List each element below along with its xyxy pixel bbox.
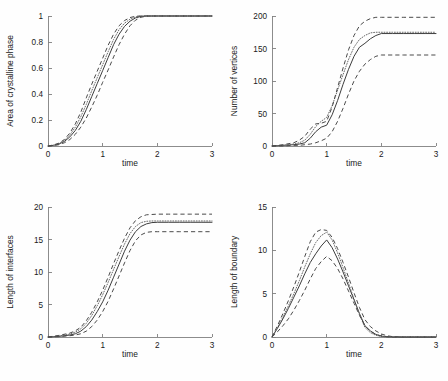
curve-lower-bound [48,232,212,337]
curve-median [272,32,436,146]
y-tick-group: 00.20.40.60.81 [32,12,52,151]
curve-upper-bound [48,214,212,337]
x-axis-title: time [122,158,138,168]
x-tick-label: 2 [155,150,160,159]
curve-upper-bound [272,230,436,337]
x-tick-label: 3 [210,150,215,159]
y-tick-label: 5 [38,301,43,310]
y-tick-label: 0.6 [32,64,44,73]
y-tick-label: 150 [253,45,267,54]
y-tick-label: 200 [253,12,267,21]
curve-median [272,232,436,337]
y-tick-label: 15 [258,203,268,212]
curve-mean [272,240,436,337]
y-axis-title: Area of crystalline phase [5,35,15,127]
x-tick-label: 0 [270,150,275,159]
axes [48,16,212,146]
plot-svg: 0123051015timeLength of boundary [224,191,448,381]
y-tick-label: 20 [34,203,44,212]
x-tick-label: 2 [379,341,384,350]
curve-lower-bound [272,55,436,146]
plot-svg: 012305101520timeLength of interfaces [0,191,224,381]
curve-median [48,16,212,146]
curve-group [272,230,436,337]
panel-bottom-right: 0123051015timeLength of boundary [224,191,448,381]
curve-mean [48,222,212,337]
y-tick-label: 0.2 [32,116,44,125]
y-tick-label: 50 [258,110,268,119]
x-tick-group: 0123 [46,143,215,160]
y-tick-label: 15 [34,236,44,245]
y-tick-label: 0 [38,142,43,151]
panel-top-right: 0123050100150200timeNumber of vertices [224,0,448,190]
axes [272,207,436,337]
x-tick-label: 1 [100,150,105,159]
y-tick-label: 0.4 [32,90,44,99]
x-tick-label: 3 [434,341,439,350]
curve-group [272,17,436,146]
y-tick-label: 10 [258,246,268,255]
curve-lower-bound [272,256,436,337]
x-tick-label: 1 [324,341,329,350]
y-tick-label: 0 [262,142,267,151]
x-tick-label: 1 [324,150,329,159]
axes [48,207,212,337]
y-tick-label: 100 [253,77,267,86]
x-axis-title: time [346,158,362,168]
x-tick-label: 0 [270,341,275,350]
y-tick-label: 10 [34,268,44,277]
y-tick-label: 0.8 [32,38,44,47]
y-tick-label: 5 [262,290,267,299]
curve-upper-bound [48,16,212,146]
curve-mean [272,34,436,146]
x-axis-title: time [346,349,362,359]
x-tick-label: 2 [155,341,160,350]
x-tick-label: 2 [379,150,384,159]
x-tick-label: 0 [46,150,51,159]
y-tick-label: 1 [38,12,43,21]
curve-median [48,221,212,337]
multi-panel-figure: 012300.20.40.60.81timeArea of crystallin… [0,0,448,381]
x-tick-label: 1 [100,341,105,350]
y-tick-group: 051015 [258,203,276,342]
plot-svg: 012300.20.40.60.81timeArea of crystallin… [0,0,224,190]
y-tick-label: 0 [262,333,267,342]
curve-group [48,16,212,146]
panel-top-left: 012300.20.40.60.81timeArea of crystallin… [0,0,224,190]
curve-mean [48,16,212,146]
y-axis-title: Length of boundary [229,235,239,308]
y-axis-title: Length of interfaces [5,235,15,309]
x-tick-label: 0 [46,341,51,350]
plot-svg: 0123050100150200timeNumber of vertices [224,0,448,190]
x-tick-group: 0123 [270,334,439,351]
y-tick-group: 05101520 [34,203,52,342]
panel-bottom-left: 012305101520timeLength of interfaces [0,191,224,381]
y-tick-label: 0 [38,333,43,342]
y-axis-title: Number of vertices [229,46,239,116]
x-tick-label: 3 [210,341,215,350]
curve-lower-bound [48,16,212,146]
x-tick-label: 3 [434,150,439,159]
curve-group [48,214,212,337]
x-axis-title: time [122,349,138,359]
